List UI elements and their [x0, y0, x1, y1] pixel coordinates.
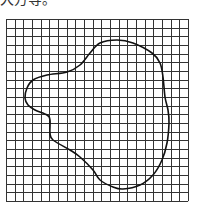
- square-grid: [6, 19, 189, 202]
- grid-figure: [0, 0, 202, 206]
